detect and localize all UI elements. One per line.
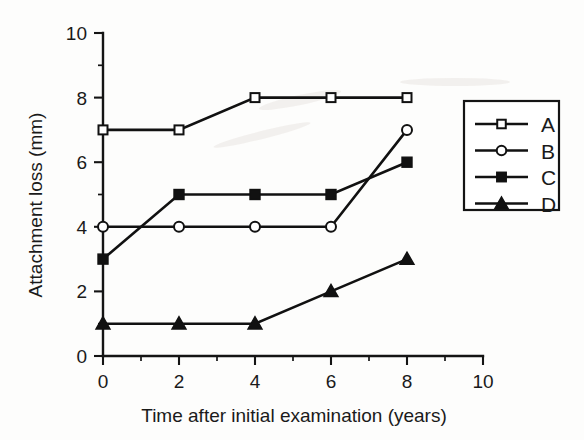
series-line-b — [103, 130, 407, 227]
data-point-marker-b — [174, 222, 184, 232]
data-point-marker-c — [326, 190, 336, 200]
x-tick-label: 6 — [326, 371, 337, 392]
series-c — [98, 157, 412, 264]
chart-figure: 0246810 0246810 Attachment loss (mm) Tim… — [0, 0, 584, 440]
x-tick-label: 0 — [98, 371, 109, 392]
data-point-marker-a — [251, 93, 260, 102]
line-chart: 0246810 0246810 Attachment loss (mm) Tim… — [0, 0, 584, 440]
x-tick-label: 4 — [250, 371, 261, 392]
data-point-marker-legend-b — [497, 146, 507, 156]
y-tick-label: 6 — [76, 152, 87, 173]
legend-label-d: D — [541, 193, 556, 216]
data-point-marker-b — [98, 222, 108, 232]
data-point-marker-a — [175, 125, 184, 134]
data-point-marker-legend-a — [497, 120, 506, 129]
legend-label-c: C — [541, 166, 556, 189]
y-tick-label: 0 — [76, 346, 87, 367]
data-point-marker-a — [403, 93, 412, 102]
data-point-marker-c — [174, 190, 184, 200]
data-point-marker-b — [250, 222, 260, 232]
x-axis-title: Time after initial examination (years) — [141, 405, 447, 426]
series-d — [96, 252, 414, 329]
data-point-marker-b — [402, 125, 412, 135]
y-axis-title: Attachment loss (mm) — [25, 113, 46, 298]
data-point-marker-c — [250, 190, 260, 200]
y-tick-label: 2 — [76, 281, 87, 302]
y-axis-tick-labels: 0246810 — [66, 23, 88, 367]
series-line-d — [103, 259, 407, 324]
series-line-c — [103, 162, 407, 259]
x-tick-label: 8 — [402, 371, 413, 392]
data-point-marker-a — [327, 93, 336, 102]
data-point-marker-a — [99, 125, 108, 134]
legend-label-b: B — [541, 140, 555, 163]
x-axis-ticks — [103, 356, 483, 365]
data-point-marker-d — [400, 252, 414, 264]
data-point-marker-legend-c — [497, 172, 507, 182]
legend-label-a: A — [541, 113, 555, 136]
series-b — [98, 125, 412, 232]
y-tick-label: 4 — [76, 217, 87, 238]
x-axis-tick-labels: 0246810 — [98, 371, 494, 392]
data-point-marker-c — [402, 157, 412, 167]
x-tick-label: 2 — [174, 371, 185, 392]
data-point-marker-b — [326, 222, 336, 232]
x-tick-label: 10 — [472, 371, 493, 392]
y-tick-label: 8 — [76, 88, 87, 109]
y-axis-ticks — [94, 33, 103, 356]
data-series-layer — [96, 93, 414, 329]
data-point-marker-c — [98, 254, 108, 264]
chart-legend: ABCD — [464, 101, 559, 216]
series-a — [99, 93, 412, 134]
y-tick-label: 10 — [66, 23, 87, 44]
